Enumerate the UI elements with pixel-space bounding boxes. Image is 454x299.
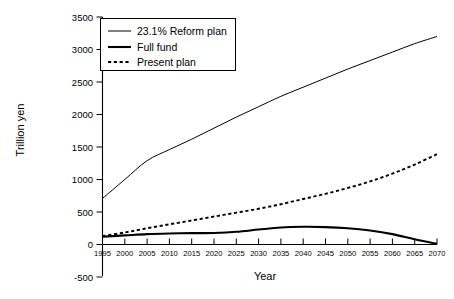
- y-tick-label: -500: [74, 272, 93, 283]
- x-tick-label: 2035: [272, 249, 289, 258]
- y-tick-label: 1000: [72, 174, 93, 185]
- series-line-present-plan: [103, 154, 438, 236]
- x-tick-label: 2010: [161, 249, 178, 258]
- legend: 23.1% Reform plan Full fund Present plan: [101, 19, 236, 71]
- x-tick-label: 2050: [339, 249, 356, 258]
- legend-label-present-plan: Present plan: [137, 56, 196, 68]
- x-tick-label: 2045: [317, 249, 334, 258]
- y-tick-label: 2000: [72, 109, 93, 120]
- x-tick-label: 2025: [228, 249, 245, 258]
- x-axis-title: Year: [254, 270, 277, 282]
- x-tick-label: 2015: [183, 249, 200, 258]
- y-tick-label: 0: [88, 239, 93, 250]
- y-tick-label: 2500: [72, 77, 93, 88]
- x-tick-label: 2030: [250, 249, 267, 258]
- y-tick-label: 500: [77, 207, 93, 218]
- x-tick-label: 2055: [362, 249, 379, 258]
- chart-figure: 3500300025002000150010005000-500 1995200…: [0, 0, 454, 299]
- x-tick-label: 2065: [406, 249, 423, 258]
- x-axis-ticks: 1995200020052010201520202025203020352040…: [94, 239, 445, 259]
- x-tick-label: 2070: [429, 249, 446, 258]
- legend-label-reform-plan: 23.1% Reform plan: [137, 25, 227, 37]
- x-tick-label: 2000: [116, 249, 133, 258]
- y-tick-label: 1500: [72, 142, 93, 153]
- y-tick-label: 3500: [72, 12, 93, 23]
- x-tick-label: 2020: [206, 249, 223, 258]
- line-chart: 3500300025002000150010005000-500 1995200…: [0, 0, 454, 299]
- y-axis-ticks: 3500300025002000150010005000-500: [72, 12, 103, 283]
- x-tick-label: 2005: [139, 249, 156, 258]
- y-axis-title: Trillion yen: [14, 104, 26, 157]
- x-tick-label: 2040: [295, 249, 312, 258]
- x-tick-label: 2060: [384, 249, 401, 258]
- legend-label-full-fund: Full fund: [137, 41, 177, 53]
- y-tick-label: 3000: [72, 44, 93, 55]
- series-line-full-fund: [103, 227, 438, 244]
